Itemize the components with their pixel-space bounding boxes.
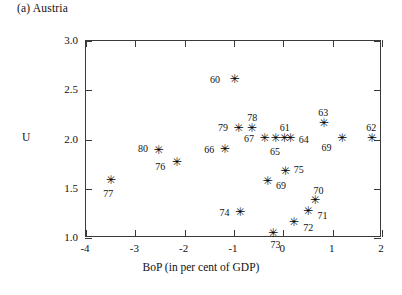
x-tick-mark [135, 230, 136, 237]
data-point-label: 60 [210, 74, 220, 85]
x-tick-mark [333, 230, 334, 237]
x-tick-label: 0 [280, 242, 286, 254]
x-tick-mark [333, 40, 334, 47]
y-axis-tick-labels: 3.02.52.01.51.0 [44, 40, 78, 237]
y-tick-mark [85, 90, 92, 91]
data-point-label: 71 [318, 210, 328, 221]
data-point-label: 64 [299, 133, 309, 144]
data-point-label: 76 [155, 161, 165, 172]
y-tick-label: 2.0 [64, 133, 78, 145]
y-tick-mark [85, 238, 92, 239]
data-point-label: 62 [366, 121, 376, 132]
data-point-label: 74 [219, 207, 229, 218]
x-tick-mark [86, 40, 87, 47]
x-tick-mark [135, 40, 136, 47]
page-title: (a) Austria [17, 2, 68, 14]
x-tick-mark [185, 40, 186, 47]
data-point-marker: ✳ [303, 207, 312, 216]
x-tick-label: -3 [130, 242, 139, 254]
data-point-marker: ✳ [106, 176, 115, 185]
data-point-label: 67 [244, 132, 254, 143]
data-point-marker: ✳ [367, 134, 376, 143]
data-point-label: 72 [303, 222, 313, 233]
x-axis-title: BoP (in per cent of GDP) [0, 261, 402, 273]
data-point-marker: ✳ [172, 158, 181, 167]
x-tick-label: -1 [228, 242, 237, 254]
data-point-marker: ✳ [285, 134, 294, 143]
data-point-label: 61 [280, 121, 290, 132]
data-point-marker: ✳ [154, 146, 163, 155]
data-point-label: 80 [138, 143, 148, 154]
x-tick-label: 1 [329, 242, 335, 254]
data-point-marker: ✳ [319, 119, 328, 128]
y-tick-mark [85, 189, 92, 190]
data-point-marker: ✳ [235, 208, 244, 217]
data-point-label: 63 [318, 106, 328, 117]
x-axis-tick-labels: -4-3-2-1012 [0, 242, 402, 258]
data-point-label: 79 [218, 121, 228, 132]
plot-area: ✳60✳79✳78✳63✳67✳65✳61✳64✳69✳62✳80✳66✳76✳… [85, 40, 381, 237]
x-tick-label: -4 [80, 242, 89, 254]
data-point-label: 75 [294, 164, 304, 175]
data-point-label: 69 [276, 179, 286, 190]
y-tick-mark [374, 238, 381, 239]
data-point-marker: ✳ [233, 124, 242, 133]
scatter-figure: (a) Austria U 3.02.52.01.51.0 ✳60✳79✳78✳… [0, 0, 402, 295]
y-axis-title: U [22, 131, 30, 143]
data-point-marker: ✳ [268, 229, 277, 238]
y-tick-mark [374, 90, 381, 91]
x-tick-mark [185, 230, 186, 237]
data-point-label: 70 [313, 184, 323, 195]
data-point-label: 66 [204, 144, 214, 155]
data-point-marker: ✳ [263, 177, 272, 186]
data-point-marker: ✳ [289, 218, 298, 227]
data-point-marker: ✳ [270, 134, 279, 143]
x-tick-mark [234, 40, 235, 47]
y-tick-label: 2.5 [64, 83, 78, 95]
y-tick-mark [85, 140, 92, 141]
y-tick-mark [374, 41, 381, 42]
data-point-marker: ✳ [220, 145, 229, 154]
data-point-marker: ✳ [279, 134, 288, 143]
data-point-label: 77 [103, 187, 113, 198]
data-point-marker: ✳ [310, 196, 319, 205]
x-tick-mark [86, 230, 87, 237]
x-tick-mark [382, 230, 383, 237]
data-point-marker: ✳ [280, 167, 289, 176]
y-tick-label: 1.5 [64, 182, 78, 194]
x-tick-label: 2 [378, 242, 384, 254]
data-point-marker: ✳ [230, 75, 239, 84]
y-tick-mark [374, 189, 381, 190]
data-point-marker: ✳ [260, 134, 269, 143]
x-tick-mark [283, 40, 284, 47]
y-tick-mark [374, 140, 381, 141]
x-tick-mark [234, 230, 235, 237]
x-tick-mark [283, 230, 284, 237]
x-tick-mark [382, 40, 383, 47]
y-tick-label: 3.0 [64, 34, 78, 46]
x-tick-label: -2 [179, 242, 188, 254]
data-point-marker: ✳ [337, 134, 346, 143]
data-point-label: 65 [270, 145, 280, 156]
data-point-label: 69 [322, 141, 332, 152]
data-point-label: 78 [247, 111, 257, 122]
